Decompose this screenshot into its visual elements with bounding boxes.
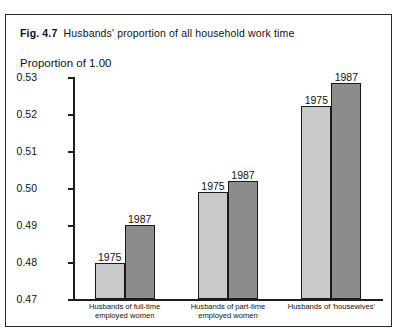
figure-title-text: Husbands' proportion of all household wo… [64, 27, 295, 39]
y-axis-tick-label: 0.48 [17, 256, 37, 268]
y-axis-tick-label: 0.53 [17, 71, 37, 83]
category-label-line: Husbands of part-time [177, 302, 278, 311]
y-axis-tick-label: 0.51 [17, 145, 37, 157]
bar-value-label: 1987 [128, 213, 151, 225]
y-axis-label: Proportion of 1.00 [20, 57, 111, 69]
bar-group: 19751987 [280, 77, 383, 299]
bar-1987[interactable]: 1987 [331, 83, 361, 299]
bar-1987[interactable]: 1987 [125, 225, 155, 299]
bar-pair: 19751987 [176, 77, 279, 299]
category-labels: Husbands of full-timeemployed womenHusba… [73, 302, 383, 321]
category-label-line: Husbands of 'housewives' [281, 302, 382, 311]
y-axis-tick-label: 0.49 [17, 219, 37, 231]
bar-1975[interactable]: 1975 [198, 192, 228, 299]
category-label-2: Husbands of part-timeemployed women [176, 302, 279, 321]
y-axis-tick [68, 299, 73, 301]
bar-pair: 19751987 [73, 77, 176, 299]
figure-frame: Fig. 4.7 Husbands' proportion of all hou… [5, 14, 392, 327]
bar-1987[interactable]: 1987 [228, 181, 258, 299]
bar-1975[interactable]: 1975 [301, 106, 331, 299]
figure-title: Fig. 4.7 Husbands' proportion of all hou… [20, 27, 294, 39]
category-label-3: Husbands of 'housewives' [280, 302, 383, 321]
bar-1975[interactable]: 1975 [95, 263, 125, 299]
y-axis-tick-label: 0.52 [17, 108, 37, 120]
bar-group: 19751987 [176, 77, 279, 299]
figure-number: Fig. 4.7 [20, 27, 57, 39]
bar-value-label: 1987 [335, 71, 358, 83]
bar-group: 19751987 [73, 77, 176, 299]
y-axis-tick-label: 0.50 [17, 182, 37, 194]
y-axis-tick-label: 0.47 [17, 293, 37, 305]
y-axis-tick-labels: 0.530.520.510.500.490.480.47 [0, 77, 37, 299]
bar-value-label: 1975 [98, 251, 121, 263]
bar-value-label: 1987 [231, 169, 254, 181]
category-label-line: Husbands of full-time [74, 302, 175, 311]
bar-groups: 197519871975198719751987 [73, 77, 383, 299]
bar-pair: 19751987 [280, 77, 383, 299]
x-axis-line [73, 299, 383, 301]
category-label-1: Husbands of full-timeemployed women [73, 302, 176, 321]
bar-value-label: 1975 [305, 94, 328, 106]
category-label-line: employed women [74, 311, 175, 320]
bar-value-label: 1975 [201, 180, 224, 192]
category-label-line: employed women [177, 311, 278, 320]
